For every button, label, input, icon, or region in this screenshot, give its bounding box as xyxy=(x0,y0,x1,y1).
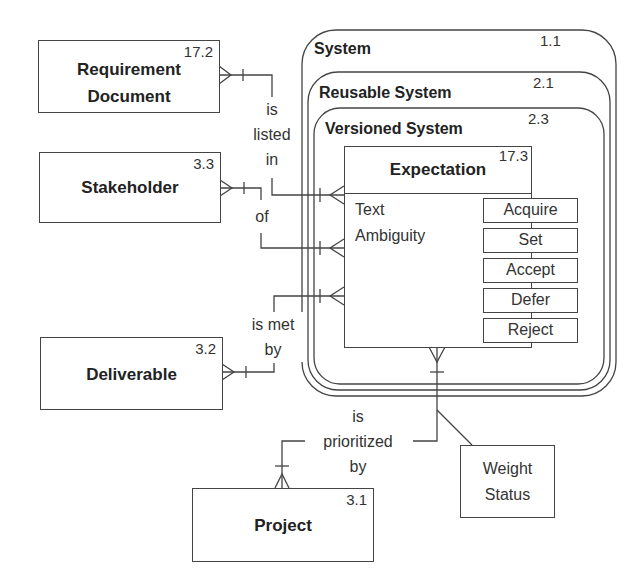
entity-deliverable[interactable]: 3.2 Deliverable xyxy=(40,337,223,410)
entity-title: Project xyxy=(193,515,373,537)
operation-set[interactable]: Set xyxy=(483,228,578,253)
entity-title: Deliverable xyxy=(41,364,222,386)
entity-stakeholder[interactable]: 3.3 Stakeholder xyxy=(39,152,221,223)
relationship-label-line: of xyxy=(248,204,276,229)
association-attributes-box[interactable]: Weight Status xyxy=(460,445,555,518)
entity-ref: 17.2 xyxy=(184,43,213,60)
operation-reject[interactable]: Reject xyxy=(483,318,578,343)
entity-ref: 3.3 xyxy=(193,155,214,172)
operation-defer[interactable]: Defer xyxy=(483,288,578,313)
relationship-label-line: prioritized xyxy=(306,429,410,454)
attribute-ambiguity: Ambiguity xyxy=(355,225,425,247)
association-attribute: Weight xyxy=(461,458,554,480)
header-divider xyxy=(345,193,531,194)
system-ref: 2.1 xyxy=(533,74,554,91)
relationship-label-line: by xyxy=(242,337,304,362)
relationship-label-met-by: is met by xyxy=(242,312,304,362)
entity-title: Expectation xyxy=(345,159,531,181)
relationship-label-line: is met xyxy=(242,312,304,337)
entity-ref: 3.1 xyxy=(346,491,367,508)
relationship-label-listed-in: is listed in xyxy=(248,97,296,172)
operation-accept[interactable]: Accept xyxy=(483,258,578,283)
relationship-label-line: in xyxy=(248,147,296,172)
relationship-label-of: of xyxy=(248,204,276,229)
relationship-label-prioritized-by: is prioritized by xyxy=(306,404,410,479)
system-label: Versioned System xyxy=(325,120,463,138)
entity-title: Requirement Document xyxy=(39,59,219,108)
relationship-label-line: listed xyxy=(248,122,296,147)
system-label: Reusable System xyxy=(319,84,452,102)
system-ref: 1.1 xyxy=(540,32,561,49)
entity-title: Stakeholder xyxy=(40,177,220,199)
operation-acquire[interactable]: Acquire xyxy=(483,198,578,223)
relationship-label-line: by xyxy=(306,454,410,479)
entity-ref: 3.2 xyxy=(195,340,216,357)
attribute-text: Text xyxy=(355,199,384,221)
entity-project[interactable]: 3.1 Project xyxy=(192,488,374,562)
relationship-label-line: is xyxy=(306,404,410,429)
system-ref: 2.3 xyxy=(528,110,549,127)
entity-requirement-document[interactable]: 17.2 Requirement Document xyxy=(38,40,220,113)
entity-title-line: Requirement xyxy=(39,59,219,81)
relationship-label-line: is xyxy=(248,97,296,122)
entity-title-line: Document xyxy=(39,86,219,108)
system-label: System xyxy=(314,40,371,58)
association-attribute: Status xyxy=(461,484,554,506)
